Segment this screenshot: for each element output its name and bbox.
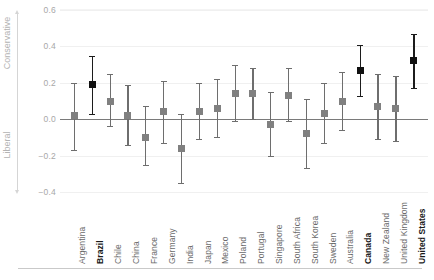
error-bar-cap-lower (321, 143, 327, 144)
error-bar-cap-lower (143, 165, 149, 166)
footer-divider (18, 268, 422, 269)
data-point-marker[interactable] (232, 90, 239, 97)
x-tick-label: United States (417, 208, 427, 264)
data-point-marker[interactable] (178, 145, 185, 152)
ideology-axis-rail (17, 14, 18, 190)
error-bar-cap-lower (125, 145, 131, 146)
error-bar-cap-upper (268, 92, 274, 93)
x-tick-label: Mexico (220, 236, 230, 264)
x-tick-label: Germany (167, 228, 177, 264)
data-point-marker[interactable] (410, 57, 417, 64)
x-tick-label: India (185, 245, 195, 264)
error-bar-cap-upper (321, 83, 327, 84)
error-bar-cap-upper (411, 34, 417, 35)
x-tick-label: Sweden (328, 233, 338, 264)
data-point-marker[interactable] (196, 108, 203, 115)
error-bar-cap-upper (375, 74, 381, 75)
data-point-marker[interactable] (71, 112, 78, 119)
error-bar-cap-upper (125, 85, 131, 86)
error-bar-cap-lower (375, 139, 381, 140)
error-bar-cap-lower (286, 121, 292, 122)
y-tick-label: −0.4 (38, 187, 56, 197)
plot-area (60, 10, 428, 192)
y-tick-label: 0.4 (44, 41, 56, 51)
error-bar-cap-lower (71, 150, 77, 151)
error-bar-cap-upper (89, 56, 95, 57)
error-bar-cap-lower (214, 137, 220, 138)
data-point-marker[interactable] (249, 90, 256, 97)
x-tick-label: Chile (113, 244, 123, 264)
error-bar-cap-upper (304, 99, 310, 100)
gridline (60, 156, 428, 157)
x-tick-label: Singapore (274, 224, 284, 264)
error-bar-cap-lower (89, 114, 95, 115)
data-point-marker[interactable] (321, 110, 328, 117)
x-tick-label: China (131, 241, 141, 264)
x-tick-label: Brazil (95, 240, 105, 264)
y-tick-label: 0.0 (44, 114, 56, 124)
error-bar-cap-lower (268, 156, 274, 157)
data-point-marker[interactable] (160, 108, 167, 115)
error-bar-cap-lower (250, 119, 256, 120)
error-bar-cap-lower (196, 139, 202, 140)
data-point-marker[interactable] (142, 134, 149, 141)
error-bar-cap-upper (339, 72, 345, 73)
x-tick-label: Canada (363, 233, 373, 264)
error-bar-cap-upper (196, 83, 202, 84)
error-bar-cap-upper (357, 45, 363, 46)
x-tick-label: South Africa (292, 217, 302, 264)
data-point-marker[interactable] (339, 98, 346, 105)
error-bar-cap-upper (286, 68, 292, 69)
data-point-marker[interactable] (214, 105, 221, 112)
data-point-marker[interactable] (107, 98, 114, 105)
error-bar-cap-upper (232, 65, 238, 66)
chart-container: Conservative Liberal 0.60.40.20.0−0.2−0.… (0, 0, 434, 280)
x-tick-label: United Kingdom (399, 202, 409, 264)
error-bar-cap-lower (161, 143, 167, 144)
axis-pole-liberal: Liberal (2, 110, 12, 180)
x-tick-label: France (149, 237, 159, 264)
y-tick-label: −0.2 (38, 151, 56, 161)
error-bar-cap-lower (232, 121, 238, 122)
x-tick-label: South Korea (310, 216, 320, 264)
error-bar-cap-upper (143, 106, 149, 107)
data-point-marker[interactable] (89, 81, 96, 88)
error-bar-cap-lower (304, 168, 310, 169)
data-point-marker[interactable] (357, 67, 364, 74)
error-bar-cap-upper (71, 83, 77, 84)
x-tick-label: Argentina (77, 227, 87, 264)
error-bar-cap-upper (178, 114, 184, 115)
data-point-marker[interactable] (124, 112, 131, 119)
x-tick-label: Poland (238, 237, 248, 264)
x-axis-category-labels: ArgentinaBrazilChileChinaFranceGermanyIn… (60, 196, 428, 268)
error-bar-cap-upper (161, 81, 167, 82)
data-point-marker[interactable] (303, 130, 310, 137)
data-point-marker[interactable] (267, 121, 274, 128)
x-tick-label: Portugal (256, 232, 266, 264)
data-point-marker[interactable] (392, 105, 399, 112)
error-bar-cap-lower (178, 183, 184, 184)
y-tick-label: 0.2 (44, 78, 56, 88)
error-bar-cap-upper (250, 68, 256, 69)
x-tick-label: New Zealand (381, 213, 391, 264)
gridline (60, 192, 428, 193)
data-point-marker[interactable] (374, 103, 381, 110)
error-bar-cap-upper (214, 79, 220, 80)
x-tick-label: Japan (203, 240, 213, 264)
error-bar-cap-lower (411, 88, 417, 89)
error-bar-cap-lower (357, 96, 363, 97)
gridline (60, 83, 428, 84)
x-tick-label: Australia (345, 230, 355, 264)
gridline (60, 46, 428, 47)
error-bar-cap-lower (339, 130, 345, 131)
data-point-marker[interactable] (285, 92, 292, 99)
error-bar-cap-upper (393, 76, 399, 77)
error-bar-cap-lower (107, 126, 113, 127)
gridline (60, 10, 428, 11)
axis-pole-conservative: Conservative (2, 8, 12, 78)
error-bar-cap-upper (107, 74, 113, 75)
y-tick-label: 0.6 (44, 5, 56, 15)
y-axis-tick-labels: 0.60.40.20.0−0.2−0.4 (22, 10, 56, 192)
zero-reference-line (60, 119, 428, 120)
error-bar-cap-lower (393, 141, 399, 142)
